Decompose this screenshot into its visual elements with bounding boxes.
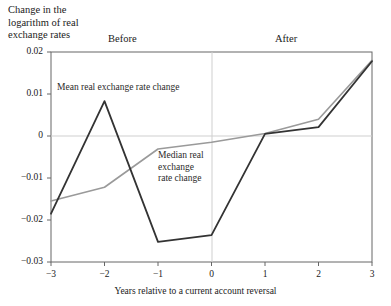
y-tick-label: 0.02 xyxy=(0,46,43,56)
x-tick-label: 0 xyxy=(192,269,232,279)
y-tick-label: −0.02 xyxy=(0,214,43,224)
figure-container: Change in the logarithm of real exchange… xyxy=(0,0,391,306)
series-annotation-median: Median real exchange rate change xyxy=(158,150,204,185)
series-annotation-mean: Mean real exchange rate change xyxy=(57,82,179,94)
x-tick-label: −2 xyxy=(85,269,125,279)
x-tick-label: −1 xyxy=(138,269,178,279)
x-tick-label: 2 xyxy=(299,269,339,279)
y-axis-ticks xyxy=(47,52,51,262)
y-tick-label: 0 xyxy=(0,130,43,140)
y-tick-label: −0.03 xyxy=(0,256,43,266)
y-tick-label: 0.01 xyxy=(0,88,43,98)
y-tick-label: −0.01 xyxy=(0,172,43,182)
x-tick-label: −3 xyxy=(31,269,71,279)
x-tick-label: 3 xyxy=(352,269,391,279)
x-axis-ticks xyxy=(51,262,372,266)
x-tick-label: 1 xyxy=(245,269,285,279)
x-axis-label: Years relative to a current account reve… xyxy=(0,286,391,296)
